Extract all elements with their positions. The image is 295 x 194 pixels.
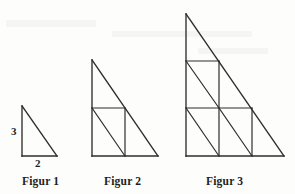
worksheet-figure-page: 3 2 Figur 1 Figur 2 Figur 3 — [0, 0, 295, 194]
figure-1-triangle — [22, 106, 57, 156]
figure-1-height-label: 3 — [11, 126, 17, 137]
figure-1-caption: Figur 1 — [22, 176, 59, 188]
figure-2-triangle — [92, 60, 158, 156]
figure-1-base-label: 2 — [35, 158, 41, 169]
figures-drawing — [0, 0, 295, 194]
figure-3-triangle — [186, 14, 284, 156]
figure-3-caption: Figur 3 — [206, 176, 243, 188]
figure-2-caption: Figur 2 — [104, 176, 141, 188]
